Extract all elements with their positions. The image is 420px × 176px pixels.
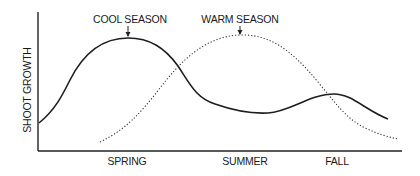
warm-season-curve — [100, 35, 398, 142]
y-axis-label: SHOOT GROWTH — [21, 47, 33, 133]
warm-season-label: WARM SEASON — [201, 13, 278, 25]
x-tick-fall: FALL — [325, 155, 349, 167]
shoot-growth-chart: SHOOT GROWTH SPRING SUMMER FALL COOL SEA… — [0, 0, 420, 176]
cool-season-curve — [39, 38, 388, 123]
warm-season-arrow-icon — [238, 26, 243, 35]
cool-season-arrow-icon — [126, 26, 131, 37]
x-tick-summer: SUMMER — [222, 155, 268, 167]
x-tick-spring: SPRING — [107, 155, 146, 167]
cool-season-label: COOL SEASON — [93, 13, 167, 25]
